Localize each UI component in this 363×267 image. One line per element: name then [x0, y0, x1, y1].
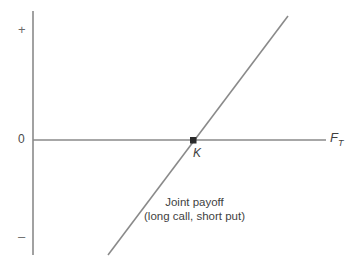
strike-price-label: K: [193, 147, 201, 159]
y-axis-positive-label: +: [18, 23, 26, 36]
x-axis-label-subscript: T: [338, 138, 344, 148]
payoff-annotation-line-2: (long call, short put): [26, 210, 363, 224]
payoff-diagram-canvas: [0, 0, 363, 267]
payoff-diagram-figure: + 0 – FT K Joint payoff (long call, shor…: [0, 0, 363, 267]
payoff-annotation: Joint payoff (long call, short put): [26, 196, 363, 223]
x-axis-label-main: F: [330, 130, 338, 145]
payoff-annotation-line-1: Joint payoff: [26, 196, 363, 210]
x-axis-label: FT: [330, 131, 343, 148]
strike-point-marker: [190, 137, 197, 144]
y-axis-zero-label: 0: [18, 133, 25, 145]
y-axis-negative-label: –: [18, 230, 25, 243]
